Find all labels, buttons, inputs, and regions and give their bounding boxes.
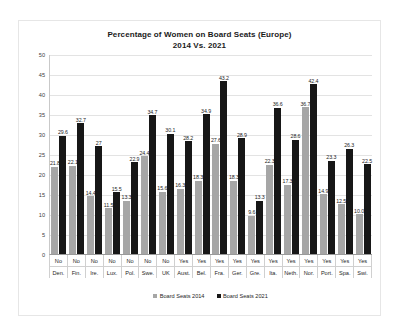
- x-axis-cell: NoPol.: [122, 255, 140, 278]
- bar-2021[interactable]: 23.3: [328, 161, 335, 254]
- legend-label: Board Seats 2014: [160, 293, 205, 299]
- bar-2014[interactable]: 21.8: [51, 167, 58, 254]
- bar-2014[interactable]: 9.6: [248, 216, 255, 254]
- x-axis-quota-label: No: [122, 255, 139, 267]
- y-axis: 50454035302520151050: [29, 55, 47, 255]
- bar-group: 15.630.1: [157, 55, 175, 254]
- bar-2014[interactable]: 17.3: [284, 185, 291, 254]
- x-axis-quota-label: No: [68, 255, 85, 267]
- x-axis-country-label: Pol.: [122, 267, 139, 278]
- plot-area: 21.829.622.132.714.42711.515.513.322.924…: [49, 55, 372, 255]
- x-axis-country-label: Aust.: [175, 267, 192, 278]
- bar-value-label: 24.4: [139, 150, 149, 156]
- bar-2021[interactable]: 34.9: [203, 114, 210, 254]
- bar-2021[interactable]: 13.3: [256, 201, 263, 254]
- bar-2021[interactable]: 28.2: [185, 141, 192, 254]
- bar-value-label: 13.3: [255, 194, 265, 200]
- bar-2021[interactable]: 22.5: [364, 164, 371, 254]
- x-axis-country-label: Lux.: [104, 267, 121, 278]
- bar-2014[interactable]: 27.6: [212, 144, 219, 254]
- x-axis-country-label: Ger.: [229, 267, 246, 278]
- bar-2014[interactable]: 11.5: [105, 208, 112, 254]
- legend-swatch-icon: [217, 294, 221, 298]
- x-axis-quota-label: Yes: [265, 255, 282, 267]
- bar-2014[interactable]: 14.4: [87, 196, 94, 254]
- bar-2021[interactable]: 28.6: [292, 140, 299, 254]
- bar-value-label: 32.7: [76, 117, 86, 123]
- bar-2021[interactable]: 22.9: [131, 162, 138, 254]
- legend-item[interactable]: Board Seats 2014: [153, 293, 204, 299]
- chart-legend: Board Seats 2014Board Seats 2021: [49, 293, 372, 299]
- x-axis-country-label: Spa.: [336, 267, 353, 278]
- bar-2014[interactable]: 24.4: [141, 156, 148, 254]
- bar-value-label: 22.3: [265, 158, 275, 164]
- bar-2014[interactable]: 14.9: [320, 194, 327, 254]
- screenshot-canvas: Percentage of Women on Board Seats (Euro…: [0, 0, 399, 331]
- bar-group: 18.334.9: [193, 55, 211, 254]
- bar-2021[interactable]: 28.9: [238, 138, 245, 254]
- bar-value-label: 27.6: [211, 137, 221, 143]
- legend-label: Board Seats 2021: [223, 293, 268, 299]
- x-axis-cell: NoFin.: [68, 255, 86, 278]
- bar-group: 13.322.9: [122, 55, 140, 254]
- bar-2021[interactable]: 15.5: [113, 192, 120, 254]
- bar-2014[interactable]: 13.3: [123, 201, 130, 254]
- bar-2021[interactable]: 29.6: [59, 136, 66, 254]
- x-axis-cell: YesAust.: [175, 255, 193, 278]
- bar-2021[interactable]: 42.4: [310, 84, 317, 254]
- x-axis-category-table: NoDen.NoFin.NoIre.NoLux.NoPol.NoSwe.NoUK…: [49, 255, 372, 278]
- x-axis-quota-label: No: [104, 255, 121, 267]
- bar-2021[interactable]: 27: [95, 146, 102, 254]
- bar-group: 9.613.3: [247, 55, 265, 254]
- y-axis-tick: 20: [39, 172, 45, 178]
- bar-group: 22.132.7: [68, 55, 86, 254]
- bar-2014[interactable]: 18.3: [230, 181, 237, 254]
- bar-value-label: 14.4: [86, 190, 96, 196]
- legend-item[interactable]: Board Seats 2021: [217, 293, 268, 299]
- x-axis-quota-label: Yes: [211, 255, 228, 267]
- bar-value-label: 34.9: [201, 108, 211, 114]
- bar-2021[interactable]: 30.1: [167, 134, 174, 254]
- bar-group: 12.526.3: [336, 55, 354, 254]
- x-axis-country-label: Nor.: [300, 267, 317, 278]
- bar-2014[interactable]: 22.1: [69, 166, 76, 254]
- bar-value-label: 15.6: [157, 185, 167, 191]
- bar-group: 14.427: [86, 55, 104, 254]
- bar-2014[interactable]: 12.5: [338, 204, 345, 254]
- y-axis-tick: 5: [42, 232, 45, 238]
- bar-value-label: 11.5: [104, 202, 114, 208]
- bar-2021[interactable]: 32.7: [77, 123, 84, 254]
- bar-value-label: 15.5: [112, 186, 122, 192]
- bar-value-label: 36.6: [273, 101, 283, 107]
- bar-2021[interactable]: 26.3: [346, 149, 353, 254]
- bar-value-label: 28.6: [291, 133, 301, 139]
- bar-2021[interactable]: 36.6: [274, 108, 281, 254]
- bar-value-label: 21.8: [50, 160, 60, 166]
- bar-value-label: 30.1: [165, 127, 175, 133]
- bar-value-label: 14.9: [318, 188, 328, 194]
- bar-value-label: 42.4: [308, 78, 318, 84]
- x-axis-country-label: Bel.: [193, 267, 210, 278]
- bar-value-label: 26.3: [344, 142, 354, 148]
- bar-2014[interactable]: 10.0: [356, 214, 363, 254]
- x-axis-cell: YesGre.: [247, 255, 265, 278]
- y-axis-tick: 0: [42, 252, 45, 258]
- x-axis-cell: YesPort.: [318, 255, 336, 278]
- x-axis-cell: YesNeth.: [283, 255, 301, 278]
- x-axis-quota-label: No: [50, 255, 67, 267]
- bar-2014[interactable]: 15.6: [159, 192, 166, 254]
- bar-2021[interactable]: 43.2: [220, 81, 227, 254]
- bar-value-label: 16.3: [175, 182, 185, 188]
- bar-value-label: 28.9: [237, 132, 247, 138]
- x-axis-quota-label: Yes: [300, 255, 317, 267]
- bar-2014[interactable]: 18.3: [195, 181, 202, 254]
- bar-value-label: 22.5: [362, 158, 372, 164]
- x-axis-cell: NoDen.: [49, 255, 68, 278]
- bar-2014[interactable]: 36.7: [302, 107, 309, 254]
- x-axis-country-label: Gre.: [247, 267, 264, 278]
- chart-title-line1: Percentage of Women on Board Seats (Euro…: [107, 30, 291, 39]
- bar-2014[interactable]: 22.3: [266, 165, 273, 254]
- bar-value-label: 18.3: [229, 174, 239, 180]
- bar-2014[interactable]: 16.3: [177, 189, 184, 254]
- bar-2021[interactable]: 34.7: [149, 115, 156, 254]
